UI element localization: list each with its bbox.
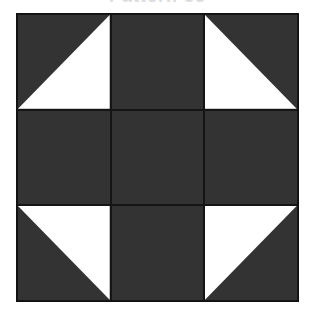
half-square-triangle-icon (18, 206, 110, 300)
cell-center (111, 110, 205, 206)
cell-bottom-left (17, 205, 111, 301)
cell-bottom-right (204, 205, 298, 301)
quilt-block (16, 13, 299, 302)
cell-bottom-center (111, 205, 205, 301)
half-square-triangle-icon (205, 15, 297, 109)
half-square-triangle-icon (18, 15, 110, 109)
cell-top-left (17, 14, 111, 110)
pattern-title: Pattern 33 (0, 0, 315, 7)
half-square-triangle-icon (205, 206, 297, 300)
cell-middle-left (17, 110, 111, 206)
cell-top-center (111, 14, 205, 110)
cell-top-right (204, 14, 298, 110)
cell-middle-right (204, 110, 298, 206)
